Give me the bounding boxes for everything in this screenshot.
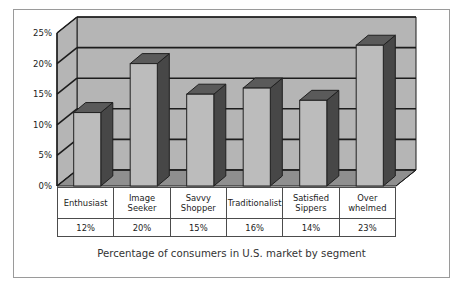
bar-2 — [187, 84, 226, 186]
category-label-line-1-0: Image — [114, 193, 169, 204]
value-cell-2: 15% — [170, 219, 226, 237]
category-label-line-5-0: Over — [340, 193, 395, 204]
y-axis-tick-10pct: 10% — [33, 120, 52, 130]
category-cell-5: Over whelmed — [339, 188, 395, 219]
figure-container: 0%5%10%15%20%25% Enthusiast Image Seeker… — [0, 0, 464, 289]
value-cell-4: 14% — [283, 219, 339, 237]
bar-5 — [356, 35, 395, 186]
bar-1 — [130, 54, 169, 186]
category-cell-0: Enthusiast — [58, 188, 114, 219]
category-label-line-1-1: Seeker — [114, 203, 169, 214]
value-cell-1: 20% — [114, 219, 170, 237]
data-table: Enthusiast Image Seeker Savvy Shopper Tr… — [57, 187, 396, 237]
category-label-line-4-1: Sippers — [283, 203, 338, 214]
category-label-line-5-1: whelmed — [340, 203, 395, 214]
y-axis-tick-15pct: 15% — [33, 89, 52, 99]
category-label-line-0-0: Enthusiast — [58, 198, 113, 209]
category-cell-1: Image Seeker — [114, 188, 170, 219]
bar-3 — [243, 78, 282, 186]
category-cell-4: Satisfied Sippers — [283, 188, 339, 219]
value-cell-3: 16% — [226, 219, 282, 237]
y-axis-tick-25pct: 25% — [33, 28, 52, 38]
table-row-values: 12% 20% 15% 16% 14% 23% — [58, 219, 396, 237]
bar-0 — [74, 103, 113, 186]
value-cell-0: 12% — [58, 219, 114, 237]
table-row-categories: Enthusiast Image Seeker Savvy Shopper Tr… — [58, 188, 396, 219]
category-cell-2: Savvy Shopper — [170, 188, 226, 219]
bar-4 — [300, 90, 339, 186]
category-cell-3: Traditionalist — [226, 188, 282, 219]
y-axis-tick-5pct: 5% — [39, 150, 53, 160]
y-axis-tick-0pct: 0% — [39, 181, 53, 191]
category-label-line-2-0: Savvy — [171, 193, 226, 204]
bar-chart: 0%5%10%15%20%25% — [0, 0, 464, 289]
y-axis-tick-20pct: 20% — [33, 59, 52, 69]
category-label-line-3-0: Traditionalist — [227, 198, 282, 209]
chart-canvas: 0%5%10%15%20%25% — [0, 0, 464, 289]
chart-caption: Percentage of consumers in U.S. market b… — [13, 248, 450, 259]
category-label-line-2-1: Shopper — [171, 203, 226, 214]
category-label-line-4-0: Satisfied — [283, 193, 338, 204]
value-cell-5: 23% — [339, 219, 395, 237]
